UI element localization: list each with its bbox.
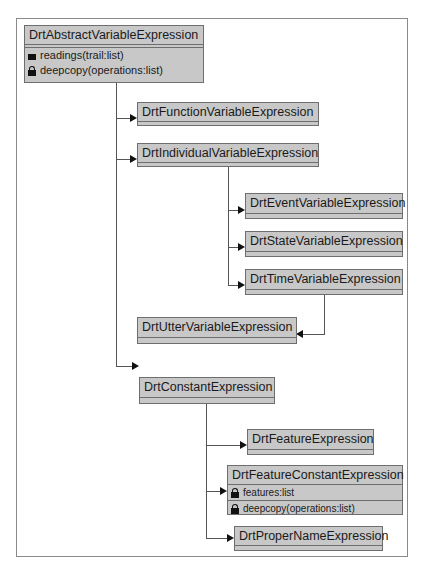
lock-icon (231, 488, 240, 498)
attribute-compartment (246, 213, 402, 216)
arrow-head-icon (296, 330, 303, 338)
class-name: DrtStateVariableExpression (246, 232, 402, 251)
arrow-head-icon (238, 281, 245, 289)
attribute-compartment (248, 449, 373, 452)
method-compartment: readings(trail:list) deepcopy(operations… (25, 47, 203, 78)
arrow-head-icon (240, 441, 247, 449)
class-feature-expression[interactable]: DrtFeatureExpression (247, 429, 374, 455)
arrow-head-icon (220, 487, 227, 495)
class-state-variable-expression[interactable]: DrtStateVariableExpression (245, 231, 403, 257)
class-name: DrtFeatureExpression (248, 430, 373, 449)
arrow-head-icon (130, 114, 137, 122)
method-item: readings(trail:list) (25, 48, 203, 63)
attribute-label: features:list (243, 485, 294, 500)
attribute-compartment (138, 162, 318, 165)
class-name: DrtProperNameExpression (235, 527, 382, 545)
attribute-item: features:list (228, 485, 402, 500)
connector-line (300, 334, 325, 335)
arrow-head-icon (130, 155, 137, 163)
class-name: DrtUtterVariableExpression (138, 318, 296, 337)
class-abstract-variable-expression[interactable]: DrtAbstractVariableExpression readings(t… (24, 25, 204, 83)
class-name: DrtAbstractVariableExpression (25, 26, 203, 44)
arrow-head-icon (227, 534, 234, 542)
attribute-compartment (140, 397, 274, 400)
class-utter-variable-expression[interactable]: DrtUtterVariableExpression (137, 317, 297, 344)
connector-line (116, 82, 117, 367)
class-name: DrtFunctionVariableExpression (138, 103, 318, 121)
method-label: readings(trail:list) (40, 48, 124, 63)
connector-line (116, 366, 133, 367)
method-item: deepcopy(operations:list) (25, 63, 203, 78)
connector-line (206, 403, 207, 539)
connector-line (324, 295, 325, 335)
arrow-head-icon (238, 206, 245, 214)
method-label: deepcopy(operations:list) (243, 501, 355, 516)
class-name: DrtConstantExpression (140, 378, 274, 397)
attribute-compartment (246, 289, 402, 292)
class-feature-constant-expression[interactable]: DrtFeatureConstantExpression features:li… (227, 465, 403, 515)
class-constant-expression[interactable]: DrtConstantExpression (139, 377, 275, 404)
connector-line (206, 445, 242, 446)
class-event-variable-expression[interactable]: DrtEventVariableExpression (245, 193, 403, 219)
class-proper-name-expression[interactable]: DrtProperNameExpression (234, 526, 383, 551)
attribute-compartment (138, 121, 318, 124)
square-icon (28, 51, 37, 61)
class-name: DrtEventVariableExpression (246, 194, 402, 213)
class-name: DrtTimeVariableExpression (246, 270, 402, 289)
lock-icon (231, 504, 240, 514)
connector-line (206, 538, 229, 539)
arrow-head-icon (238, 243, 245, 251)
attribute-compartment (138, 337, 296, 340)
class-name: DrtIndividualVariableExpression (138, 144, 318, 162)
class-individual-variable-expression[interactable]: DrtIndividualVariableExpression (137, 143, 319, 167)
attribute-compartment: features:list deepcopy(operations:list) (228, 484, 402, 516)
class-name: DrtFeatureConstantExpression (228, 466, 402, 484)
method-label: deepcopy(operations:list) (40, 63, 163, 78)
class-time-variable-expression[interactable]: DrtTimeVariableExpression (245, 269, 403, 295)
arrow-head-icon (132, 362, 139, 370)
lock-icon (28, 66, 37, 76)
method-item: deepcopy(operations:list) (228, 500, 402, 516)
attribute-compartment (235, 545, 382, 548)
class-function-variable-expression[interactable]: DrtFunctionVariableExpression (137, 102, 319, 126)
attribute-compartment (246, 251, 402, 254)
connector-line (228, 166, 229, 285)
